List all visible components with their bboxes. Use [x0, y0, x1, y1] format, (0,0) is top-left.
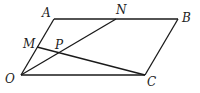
point-label-a: A: [41, 6, 51, 20]
point-label-m: M: [22, 37, 36, 51]
segment-mc: [37, 47, 145, 75]
point-label-c: C: [147, 75, 156, 89]
segment-bc: [145, 19, 178, 75]
point-label-o: O: [5, 72, 15, 86]
point-label-n: N: [115, 3, 127, 17]
geometry-diagram: OABCNMP: [0, 0, 200, 93]
point-label-b: B: [181, 11, 191, 25]
point-label-p: P: [54, 38, 64, 52]
segments: [21, 19, 178, 75]
point-labels: OABCNMP: [5, 3, 191, 89]
